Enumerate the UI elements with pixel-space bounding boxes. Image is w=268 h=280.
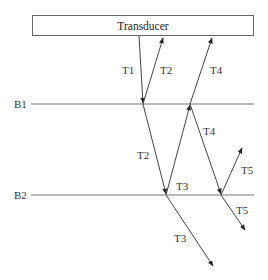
ray-t5-up bbox=[221, 148, 242, 195]
boundary-label-b1: B1 bbox=[14, 98, 27, 110]
label-t2-upper: T2 bbox=[160, 64, 172, 76]
ray-t3-transmitted-down bbox=[166, 195, 213, 266]
ray-t4-up bbox=[190, 38, 212, 104]
boundary-b2: B2 bbox=[14, 189, 254, 201]
boundary-label-b2: B2 bbox=[14, 189, 27, 201]
label-t1: T1 bbox=[122, 64, 134, 76]
transducer: Transducer bbox=[33, 16, 254, 36]
boundary-b1: B1 bbox=[14, 98, 254, 110]
rays bbox=[139, 36, 245, 266]
label-t4-lower: T4 bbox=[203, 125, 216, 137]
ray-labels: T1 T2 T4 T4 T2 T3 T5 T5 T3 bbox=[122, 64, 254, 244]
label-t2-lower: T2 bbox=[137, 149, 149, 161]
ray-t4-down bbox=[190, 104, 221, 194]
label-t3-upper: T3 bbox=[176, 180, 189, 192]
ray-t1 bbox=[139, 36, 143, 103]
label-t3-lower: T3 bbox=[174, 232, 187, 244]
label-t5-lower: T5 bbox=[236, 204, 249, 216]
label-t4-upper: T4 bbox=[210, 64, 223, 76]
ultrasound-reflection-diagram: Transducer B1 B2 T1 T2 T4 T4 T2 T3 T5 T5… bbox=[0, 0, 268, 280]
transducer-label: Transducer bbox=[117, 20, 168, 32]
label-t5-upper: T5 bbox=[241, 164, 254, 176]
